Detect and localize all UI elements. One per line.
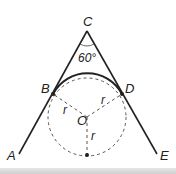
label-o: O: [77, 113, 87, 128]
geometry-diagram: C 60° B D O A E r r r: [0, 0, 176, 174]
radius-label-bottom: r: [91, 129, 96, 143]
label-e: E: [160, 148, 169, 163]
bottom-bar: [0, 168, 176, 174]
angle-label: 60°: [78, 51, 96, 65]
label-b: B: [41, 81, 50, 96]
angle-arc: [80, 44, 94, 46]
point-d: [120, 92, 124, 96]
radius-label-right: r: [101, 93, 106, 107]
label-a: A: [6, 148, 16, 163]
label-d: D: [125, 81, 134, 96]
label-c: C: [83, 14, 93, 29]
point-bottom: [85, 153, 89, 157]
arc-bd: [53, 73, 122, 94]
point-b: [51, 92, 55, 96]
radius-label-left: r: [63, 103, 68, 117]
